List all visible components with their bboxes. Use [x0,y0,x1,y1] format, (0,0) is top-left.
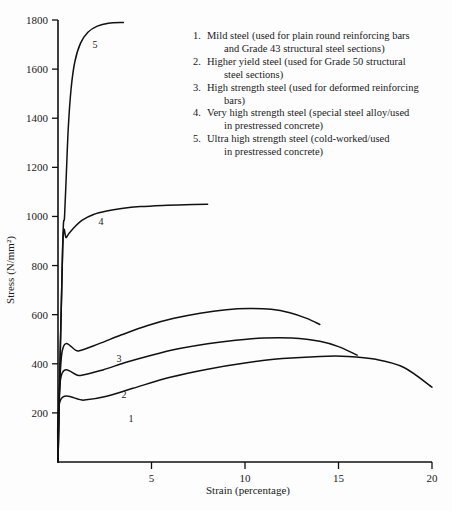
curve-label-4: 4 [99,216,104,227]
legend: 1.Mild steel (used for plain round reinf… [193,30,445,159]
legend-item: 4.Very high strength steel (special stee… [193,107,445,133]
x-tick-label: 15 [333,472,345,484]
legend-item: 5.Ultra high strength steel (cold-worked… [193,133,445,159]
legend-item-number: 2. [193,56,207,69]
legend-item-text: High strength steel (used for deformed r… [207,82,445,108]
curve-1 [58,356,432,462]
legend-item-number: 3. [193,82,207,95]
legend-item-number: 4. [193,107,207,120]
legend-item-number: 5. [193,133,207,146]
curve-label-3: 3 [117,353,122,364]
legend-item-text: Ultra high strength steel (cold-worked/u… [207,133,445,159]
legend-item: 2.Higher yield steel (used for Grade 50 … [193,56,445,82]
curve-label-1: 1 [129,413,134,424]
y-tick-label: 1800 [26,14,49,26]
legend-item-line1: Higher yield steel (used for Grade 50 st… [207,56,406,67]
legend-item-line2: bars) [207,95,445,108]
x-tick-label: 10 [240,472,252,484]
x-axis-title: Strain (percentage) [206,484,290,497]
legend-item-text: Higher yield steel (used for Grade 50 st… [207,56,445,82]
y-tick-label: 1600 [26,63,49,75]
y-tick-label: 800 [32,260,49,272]
y-axis-ticks: 20040060080010001200140016001800 [26,14,58,419]
y-tick-label: 1200 [26,161,49,173]
y-tick-label: 400 [32,358,49,370]
legend-item-line1: Mild steel (used for plain round reinfor… [207,30,410,41]
legend-item-line1: Ultra high strength steel (cold-worked/u… [207,133,390,144]
y-axis-title: Stress (N/mm²) [4,236,17,304]
x-tick-label: 20 [427,472,439,484]
legend-item-line2: in prestressed concrete) [207,146,445,159]
legend-item-line1: High strength steel (used for deformed r… [207,82,419,93]
legend-item-text: Mild steel (used for plain round reinfor… [207,30,445,56]
legend-item-number: 1. [193,30,207,43]
curve-label-2: 2 [122,389,127,400]
legend-item-line1: Very high strength steel (special steel … [207,107,409,118]
legend-item: 1.Mild steel (used for plain round reinf… [193,30,445,56]
y-tick-label: 1000 [26,210,49,222]
legend-item-line2: steel sections) [207,69,445,82]
stress-strain-chart: 20040060080010001200140016001800 5101520… [0,0,452,511]
legend-item-line2: and Grade 43 structural steel sections) [207,43,445,56]
curve-label-5: 5 [93,39,98,50]
y-tick-label: 1400 [26,112,49,124]
legend-item-text: Very high strength steel (special steel … [207,107,445,133]
legend-item: 3.High strength steel (used for deformed… [193,82,445,108]
legend-item-line2: in prestressed concrete) [207,120,445,133]
x-tick-label: 5 [149,472,155,484]
curve-3 [58,309,320,462]
y-tick-label: 600 [32,309,49,321]
y-tick-label: 200 [32,407,49,419]
x-axis-ticks: 5101520 [149,462,438,484]
